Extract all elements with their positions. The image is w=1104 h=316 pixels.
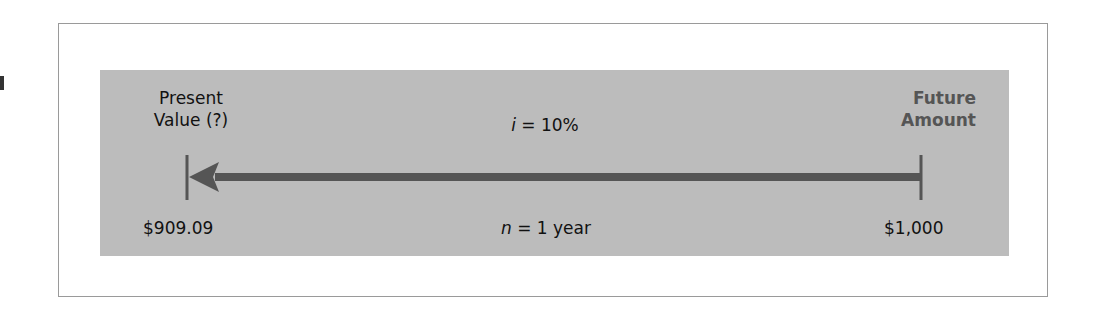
future-amount-label: Future Amount <box>870 87 976 131</box>
future-amount-title-line2: Amount <box>870 109 976 131</box>
present-value-amount: $909.09 <box>143 217 213 239</box>
present-value-label: Present Value (?) <box>145 87 237 131</box>
rate-value: = 10% <box>516 115 579 135</box>
present-value-title-line1: Present <box>145 87 237 109</box>
period-value: = 1 year <box>512 218 591 238</box>
period-symbol: n <box>501 218 512 238</box>
interest-rate-label: i = 10% <box>500 114 590 136</box>
period-label: n = 1 year <box>486 217 606 239</box>
arrow-left-icon <box>189 162 219 192</box>
future-amount-title-line1: Future <box>870 87 976 109</box>
future-value-amount: $1,000 <box>884 217 943 239</box>
present-value-title-line2: Value (?) <box>145 109 237 131</box>
timeline-graphic <box>0 0 1104 316</box>
